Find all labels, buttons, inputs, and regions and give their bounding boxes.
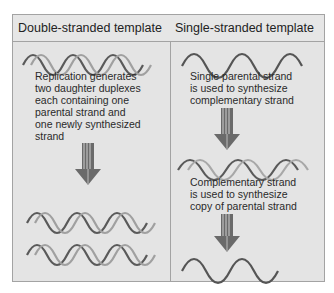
text-line: Replication generates — [35, 70, 141, 82]
text-line: strand — [35, 130, 141, 142]
text-line: copy of parental strand — [190, 200, 297, 212]
column-header: Double-stranded template — [13, 15, 170, 42]
replication-diagram: Double-stranded template Replication gen… — [12, 14, 325, 282]
text-line: one newly synthesized — [35, 118, 141, 130]
text-line: is used to synthesize — [190, 188, 297, 200]
down-arrow-icon — [75, 143, 101, 187]
text-line: each containing one — [35, 94, 141, 106]
down-arrow-icon — [214, 108, 240, 152]
daughter-duplex-2-helix-icon — [25, 239, 165, 257]
column-header-label: Single-stranded template — [175, 21, 314, 35]
parental-strand-icon — [180, 48, 310, 68]
single-stranded-description-2: Complementary strand is used to synthesi… — [190, 176, 297, 212]
intermediate-duplex-helix-icon — [176, 154, 324, 172]
text-line: parental strand and — [35, 106, 141, 118]
text-line: Complementary strand — [190, 176, 297, 188]
double-stranded-column: Double-stranded template Replication gen… — [13, 15, 171, 281]
column-header: Single-stranded template — [170, 15, 324, 42]
single-stranded-column: Single-stranded template Single parental… — [170, 15, 324, 281]
copy-strand-icon — [180, 253, 300, 273]
text-line: two daughter duplexes — [35, 82, 141, 94]
down-arrow-icon — [214, 214, 240, 254]
double-stranded-description: Replication generates two daughter duple… — [35, 70, 141, 142]
single-stranded-description-1: Single parental strand is used to synthe… — [190, 70, 294, 106]
parental-duplex-helix-icon — [21, 49, 161, 67]
text-line: complementary strand — [190, 94, 294, 106]
text-line: Single parental strand — [190, 70, 294, 82]
column-header-label: Double-stranded template — [18, 21, 162, 35]
daughter-duplex-1-helix-icon — [25, 207, 165, 225]
text-line: is used to synthesize — [190, 82, 294, 94]
